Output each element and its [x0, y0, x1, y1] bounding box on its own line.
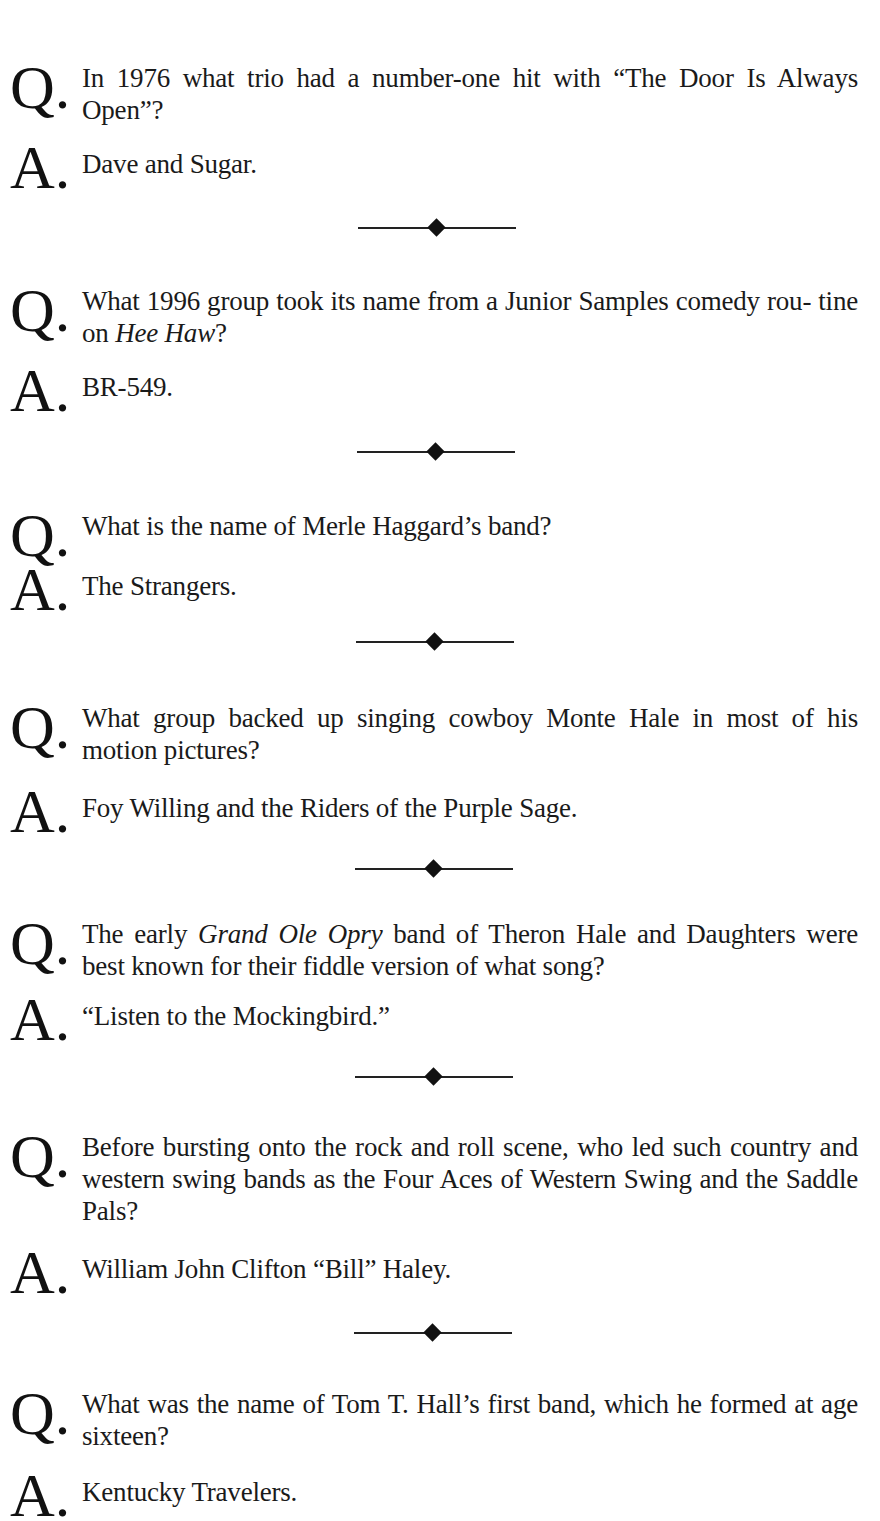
answer-text: BR-549.	[82, 371, 858, 403]
qa-item: Q. What group backed up singing cowboy M…	[0, 698, 880, 824]
section-divider	[358, 218, 516, 238]
diamond-ornament-icon	[424, 859, 442, 877]
question-text: What group backed up singing cowboy Mont…	[82, 702, 858, 766]
qa-item: Q. What is the name of Merle Haggard’s b…	[0, 506, 880, 602]
answer: A. William John Clifton “Bill” Haley.	[0, 1253, 880, 1285]
q-marker: Q.	[10, 279, 70, 341]
q-marker: Q.	[10, 1125, 70, 1187]
question-text: Before bursting onto the rock and roll s…	[82, 1131, 858, 1227]
question: Q. What is the name of Merle Haggard’s b…	[0, 510, 880, 542]
answer-text: William John Clifton “Bill” Haley.	[82, 1253, 858, 1285]
answer: A. The Strangers.	[0, 570, 880, 602]
a-marker: A.	[10, 1241, 70, 1303]
a-marker: A.	[10, 136, 70, 198]
qa-item: Q. What was the name of Tom T. Hall’s fi…	[0, 1384, 880, 1508]
answer-text: The Strangers.	[82, 570, 858, 602]
q-marker: Q.	[10, 696, 70, 758]
question: Q. The early Grand Ole Opry band of Ther…	[0, 918, 880, 982]
section-divider	[357, 442, 515, 462]
diamond-ornament-icon	[427, 218, 445, 236]
answer: A. BR-549.	[0, 371, 880, 403]
answer-text: Foy Willing and the Riders of the Purple…	[82, 792, 858, 824]
question-text: The early Grand Ole Opry band of Theron …	[82, 918, 858, 982]
question: Q. In 1976 what trio had a number-one hi…	[0, 62, 880, 126]
question-text: What was the name of Tom T. Hall’s first…	[82, 1388, 858, 1452]
answer-text: Dave and Sugar.	[82, 148, 858, 180]
a-marker: A.	[10, 558, 70, 620]
a-marker: A.	[10, 359, 70, 421]
section-divider	[354, 1323, 512, 1343]
answer: A. Foy Willing and the Riders of the Pur…	[0, 792, 880, 824]
question-text: In 1976 what trio had a number-one hit w…	[82, 62, 858, 126]
question: Q. Before bursting onto the rock and rol…	[0, 1131, 880, 1227]
section-divider	[356, 632, 514, 652]
answer: A. Dave and Sugar.	[0, 148, 880, 180]
qa-item: Q. What 1996 group took its name from a …	[0, 281, 880, 403]
answer: A. “Listen to the Mockingbird.”	[0, 1000, 880, 1032]
question: Q. What group backed up singing cowboy M…	[0, 702, 880, 766]
question-text: What 1996 group took its name from a Jun…	[82, 285, 858, 349]
section-divider	[355, 859, 513, 879]
answer: A. Kentucky Travelers.	[0, 1476, 880, 1508]
qa-item: Q. The early Grand Ole Opry band of Ther…	[0, 914, 880, 1032]
diamond-ornament-icon	[423, 1323, 441, 1341]
section-divider	[355, 1067, 513, 1087]
qa-item: Q. Before bursting onto the rock and rol…	[0, 1127, 880, 1285]
qa-item: Q. In 1976 what trio had a number-one hi…	[0, 58, 880, 180]
diamond-ornament-icon	[424, 1067, 442, 1085]
a-marker: A.	[10, 988, 70, 1050]
question: Q. What was the name of Tom T. Hall’s fi…	[0, 1388, 880, 1452]
q-marker: Q.	[10, 56, 70, 118]
a-marker: A.	[10, 780, 70, 842]
answer-text: Kentucky Travelers.	[82, 1476, 858, 1508]
diamond-ornament-icon	[425, 632, 443, 650]
a-marker: A.	[10, 1464, 70, 1521]
question-text: What is the name of Merle Haggard’s band…	[82, 510, 858, 542]
q-marker: Q.	[10, 1382, 70, 1444]
answer-text: “Listen to the Mockingbird.”	[82, 1000, 858, 1032]
diamond-ornament-icon	[426, 442, 444, 460]
question: Q. What 1996 group took its name from a …	[0, 285, 880, 349]
q-marker: Q.	[10, 912, 70, 974]
